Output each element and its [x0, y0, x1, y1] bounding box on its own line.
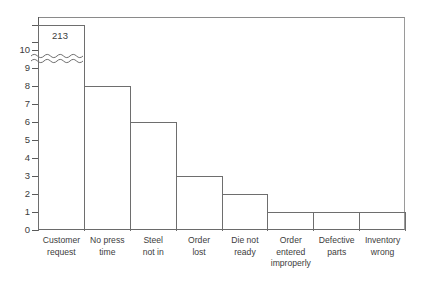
- x-axis-label-inventory-wrong: Inventorywrong: [356, 235, 409, 258]
- bar-value-label-customer-request: 213: [40, 31, 80, 41]
- bar-order-lost[interactable]: [176, 176, 223, 231]
- bar-inventory-wrong[interactable]: [359, 212, 406, 231]
- bar-no-press-time[interactable]: [84, 86, 131, 231]
- pareto-chart: 012345678910 213 CustomerrequestNo press…: [0, 0, 426, 289]
- bar-defective-parts[interactable]: [313, 212, 360, 231]
- x-axis-label-line: wrong: [356, 247, 409, 259]
- x-axis-label-line: improperly: [264, 258, 317, 270]
- bar-order-entered-improperly[interactable]: [267, 212, 314, 231]
- bar-die-not-ready[interactable]: [222, 194, 269, 231]
- bar-steel-not-in[interactable]: [130, 122, 177, 231]
- axis-break-wavy-icon: [31, 52, 83, 65]
- x-axis-label-line: Inventory: [356, 235, 409, 247]
